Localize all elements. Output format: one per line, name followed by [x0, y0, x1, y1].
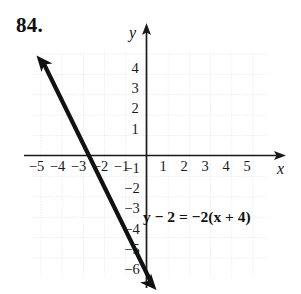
- x-tick-label-3: 3: [197, 159, 213, 174]
- y-tick-label-3: 3: [128, 81, 142, 96]
- y-tick-label-neg6: −6: [122, 262, 142, 277]
- x-tick-label-neg2: −2: [90, 159, 111, 174]
- y-tick-label-neg2: −2: [122, 181, 142, 196]
- x-tick-label-neg4: −4: [47, 159, 68, 174]
- y-tick-label-2: 2: [128, 101, 142, 116]
- y-tick-label-neg4: −4: [122, 222, 142, 237]
- x-tick-label-4: 4: [218, 159, 234, 174]
- x-tick-label-5: 5: [239, 159, 255, 174]
- equation-annotation: y − 2 = −2(x + 4): [143, 209, 251, 225]
- x-tick-label-2: 2: [176, 159, 192, 174]
- y-tick-label-1: 1: [128, 122, 142, 137]
- x-axis-label: x: [277, 161, 284, 177]
- y-tick-label-neg3: −3: [122, 201, 142, 216]
- coordinate-plane: [0, 0, 301, 294]
- x-tick-label-1: 1: [155, 159, 171, 174]
- y-tick-label-neg5: −5: [122, 242, 142, 257]
- x-tick-label-neg3: −3: [68, 159, 89, 174]
- y-tick-label-4: 4: [128, 61, 142, 76]
- math-figure: 84. 4 3 2 1 −1 −2 −3: [0, 0, 301, 294]
- y-axis-label: y: [129, 25, 136, 41]
- x-tick-label-neg1: −1: [111, 159, 132, 174]
- x-tick-label-neg5: −5: [26, 159, 47, 174]
